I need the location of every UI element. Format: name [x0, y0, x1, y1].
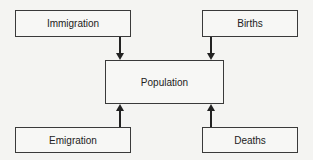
- deaths-label: Deaths: [234, 135, 266, 146]
- deaths-arrow-head-icon: [207, 104, 215, 111]
- deaths-arrow-line: [210, 110, 212, 127]
- deaths-box: Deaths: [202, 127, 298, 153]
- emigration-box: Emigration: [15, 127, 131, 153]
- immigration-label: Immigration: [47, 18, 99, 29]
- population-label: Population: [141, 77, 188, 88]
- emigration-arrow-head-icon: [116, 104, 124, 111]
- population-box: Population: [105, 60, 224, 104]
- emigration-label: Emigration: [49, 135, 97, 146]
- births-box: Births: [202, 10, 298, 37]
- immigration-arrow-line: [119, 37, 121, 54]
- births-arrow-head-icon: [207, 53, 215, 60]
- immigration-box: Immigration: [15, 10, 131, 37]
- births-label: Births: [237, 18, 263, 29]
- births-arrow-line: [210, 37, 212, 54]
- emigration-arrow-line: [119, 110, 121, 127]
- immigration-arrow-head-icon: [116, 53, 124, 60]
